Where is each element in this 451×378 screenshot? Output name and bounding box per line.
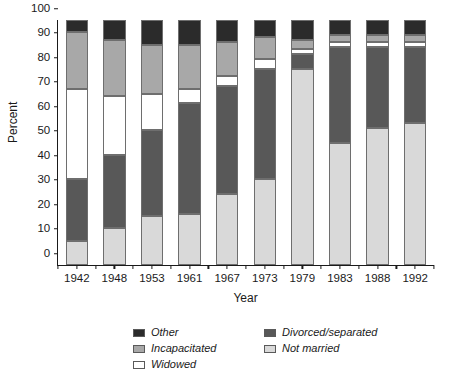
- bar-segment: [178, 89, 201, 104]
- y-axis-tick: 70: [37, 76, 58, 88]
- bar-group: 1983: [329, 20, 352, 265]
- y-axis-tick-mark: [54, 253, 58, 254]
- bar-segment: [404, 123, 427, 265]
- y-axis-tick-mark: [54, 204, 58, 205]
- bar-segment: [366, 128, 389, 265]
- x-axis-tick-mark: [339, 265, 340, 269]
- x-axis-boundary-tick: [396, 265, 397, 269]
- y-axis-tick-mark: [54, 130, 58, 131]
- legend-label-divorced-separated: Divorced/separated: [282, 327, 377, 338]
- stacked-bar[interactable]: [366, 20, 389, 265]
- bar-segment: [291, 49, 314, 54]
- x-axis-boundary-tick: [170, 265, 171, 269]
- bar-segment: [254, 20, 277, 37]
- stacked-bar[interactable]: [66, 20, 89, 265]
- bar-segment: [216, 42, 239, 76]
- bar-segment: [329, 35, 352, 42]
- x-axis-tick-mark: [151, 265, 152, 269]
- y-axis-tick-label: 80: [37, 52, 54, 64]
- y-axis-tick-label: 40: [37, 150, 54, 162]
- y-axis-tick-mark: [54, 8, 58, 9]
- bar-segment: [216, 194, 239, 265]
- bar-segment: [329, 47, 352, 143]
- x-axis-tick-label: 1979: [290, 272, 316, 284]
- stacked-bar[interactable]: [329, 20, 352, 265]
- bar-segment: [178, 103, 201, 213]
- bar-segment: [66, 32, 89, 88]
- legend-label-not-married: Not married: [282, 343, 339, 354]
- plot-area: 0102030405060708090100 19421948195319611…: [57, 20, 434, 266]
- stacked-bar[interactable]: [254, 20, 277, 265]
- bar-segment: [254, 69, 277, 179]
- bar-segment: [216, 76, 239, 86]
- x-axis-tick-label: 1942: [64, 272, 90, 284]
- bar-segment: [366, 35, 389, 42]
- bar-group: 1953: [141, 20, 164, 265]
- bar-segment: [254, 179, 277, 265]
- bar-segment: [103, 20, 126, 40]
- x-axis-boundary-tick: [208, 265, 209, 269]
- bar-segment: [103, 40, 126, 96]
- y-axis-tick-mark: [54, 155, 58, 156]
- y-axis-tick: 20: [37, 199, 58, 211]
- y-axis-tick-mark: [54, 179, 58, 180]
- x-axis-tick-mark: [302, 265, 303, 269]
- x-axis-boundary-tick: [57, 265, 58, 269]
- x-axis-boundary-tick: [245, 265, 246, 269]
- chart-figure: Percent 0102030405060708090100 194219481…: [0, 0, 451, 378]
- bar-group: 1967: [216, 20, 239, 265]
- legend-entry-widowed: Widowed: [133, 359, 196, 370]
- x-axis-tick-mark: [227, 265, 228, 269]
- legend-entry-divorced-separated: Divorced/separated: [264, 327, 377, 338]
- x-axis-tick-label: 1988: [365, 272, 391, 284]
- y-axis-tick: 50: [37, 125, 58, 137]
- bar-segment: [404, 35, 427, 42]
- bar-segment: [66, 241, 89, 266]
- x-axis-tick-mark: [264, 265, 265, 269]
- stacked-bar[interactable]: [291, 20, 314, 265]
- bar-segment: [103, 228, 126, 265]
- bar-segment: [291, 54, 314, 69]
- bar-segment: [404, 20, 427, 35]
- bar-segment: [178, 214, 201, 265]
- x-axis-tick-mark: [377, 265, 378, 269]
- y-axis-tick-label: 20: [37, 199, 54, 211]
- bar-segment: [291, 40, 314, 50]
- y-axis-tick-label: 0: [44, 248, 54, 260]
- bar-segment: [329, 42, 352, 47]
- stacked-bar[interactable]: [103, 20, 126, 265]
- y-axis-tick-label: 30: [37, 174, 54, 186]
- stacked-bar[interactable]: [216, 20, 239, 265]
- y-axis-tick: 30: [37, 174, 58, 186]
- x-axis-tick-mark: [76, 265, 77, 269]
- y-axis-tick: 90: [37, 27, 58, 39]
- x-axis-tick-label: 1992: [402, 272, 428, 284]
- legend-label-widowed: Widowed: [151, 359, 196, 370]
- y-axis-tick: 80: [37, 52, 58, 64]
- x-axis-boundary-tick: [133, 265, 134, 269]
- x-axis-tick-label: 1953: [139, 272, 165, 284]
- y-axis-tick: 60: [37, 101, 58, 113]
- x-axis-tick-label: 1967: [214, 272, 240, 284]
- stacked-bar[interactable]: [141, 20, 164, 265]
- bar-segment: [178, 20, 201, 45]
- y-axis-tick-mark: [54, 57, 58, 58]
- bar-group: 1979: [291, 20, 314, 265]
- legend-entry-incapacitated: Incapacitated: [133, 343, 216, 354]
- x-axis-tick-mark: [114, 265, 115, 269]
- y-axis-tick-mark: [54, 32, 58, 33]
- legend-entry-not-married: Not married: [264, 343, 339, 354]
- bar-group: 1973: [254, 20, 277, 265]
- legend-swatch-divorced-separated: [264, 329, 276, 337]
- legend-swatch-not-married: [264, 345, 276, 353]
- bar-segment: [66, 20, 89, 32]
- x-axis-boundary-tick: [433, 265, 434, 269]
- y-axis-tick: 0: [44, 248, 58, 260]
- stacked-bar[interactable]: [404, 20, 427, 265]
- bar-segment: [66, 89, 89, 180]
- y-axis-tick-label: 70: [37, 76, 54, 88]
- x-axis-tick-label: 1961: [177, 272, 203, 284]
- x-axis-boundary-tick: [321, 265, 322, 269]
- bar-segment: [103, 96, 126, 155]
- stacked-bar[interactable]: [178, 20, 201, 265]
